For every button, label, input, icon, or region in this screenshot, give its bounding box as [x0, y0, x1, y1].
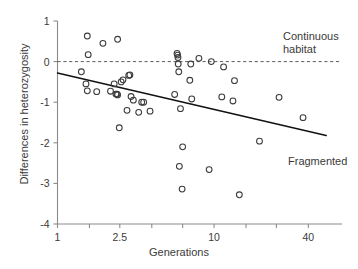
x-tick-label-2: 10 [194, 232, 234, 243]
data-point [236, 192, 242, 198]
data-point [116, 125, 122, 131]
data-point [84, 33, 90, 39]
x-tick-label-0: 1 [38, 232, 78, 243]
x-tick-label-3: 40 [288, 232, 328, 243]
data-point [176, 163, 182, 169]
data-point [78, 69, 84, 75]
data-point [94, 89, 100, 95]
data-point [178, 106, 184, 112]
data-point [175, 61, 181, 67]
x-axis-title: Generations [0, 246, 358, 258]
data-point [100, 40, 106, 46]
data-point [172, 92, 178, 98]
data-point [115, 36, 121, 42]
data-point [84, 88, 90, 94]
data-point [219, 94, 225, 100]
data-point [124, 107, 130, 113]
continuous-habitat-label: Continuous habitat [283, 30, 339, 56]
data-point [276, 94, 282, 100]
y-axis-title: Differences in heterozygosity [18, 24, 30, 204]
data-point [147, 108, 153, 114]
data-point [83, 81, 89, 87]
data-point [232, 78, 238, 84]
data-point [300, 115, 306, 121]
data-point [257, 138, 263, 144]
data-point [85, 52, 91, 58]
data-point [221, 64, 227, 70]
data-points [78, 33, 305, 198]
data-point [187, 77, 193, 83]
data-point [196, 55, 202, 61]
scatter-plot-figure: 10-1-2-3-412.51040 Differences in hetero… [0, 0, 358, 269]
data-point [136, 109, 142, 115]
data-point [206, 167, 212, 173]
x-tick-label-1: 2.5 [100, 232, 140, 243]
y-tick-label-5: -4 [24, 219, 50, 230]
data-point [180, 144, 186, 150]
data-point [230, 98, 236, 104]
fragmented-label: Fragmented [288, 155, 347, 168]
data-point [188, 61, 194, 67]
data-point [176, 69, 182, 75]
data-point [108, 88, 114, 94]
data-point [179, 186, 185, 192]
data-point [189, 96, 195, 102]
